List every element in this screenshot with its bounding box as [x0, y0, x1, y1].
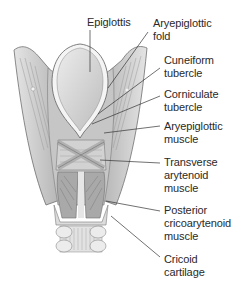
leader-posterior-cricoarytenoid-muscle	[106, 201, 160, 211]
trachea	[56, 226, 106, 252]
posterior-cricoarytenoid	[57, 172, 105, 218]
arytenoid-muscles	[56, 140, 106, 170]
label-epiglottis: Epiglottis	[87, 16, 131, 29]
label-transverse-arytenoid-muscle: Transverse arytenoid muscle	[164, 156, 218, 195]
label-cuneiform-tubercle: Cuneiform tubercle	[164, 54, 214, 80]
label-aryepiglottic-muscle: Aryepiglottic muscle	[164, 120, 223, 146]
label-posterior-cricoarytenoid-muscle: Posterior cricoarytenoid muscle	[164, 204, 231, 243]
label-corniculate-tubercle: Corniculate tubercle	[164, 88, 219, 114]
larynx-diagram	[0, 0, 243, 298]
label-aryepiglottic-fold: Aryepiglottic fold	[153, 17, 212, 43]
leader-cricoid-cartilage	[111, 216, 160, 257]
label-cricoid-cartilage: Cricoid cartilage	[164, 253, 205, 279]
